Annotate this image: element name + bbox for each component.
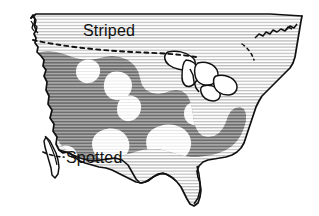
striped-label: Striped	[83, 22, 135, 39]
spotted-label: Spotted	[66, 149, 123, 166]
map-body: Striped Spotted	[0, 0, 319, 216]
map-svg: Striped Spotted	[0, 0, 319, 216]
distribution-map-figure: Striped Spotted	[0, 0, 319, 216]
